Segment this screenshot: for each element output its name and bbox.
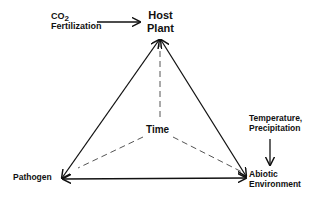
time-label: Time	[146, 124, 169, 135]
node-pathogen: Pathogen	[13, 173, 52, 183]
co2-prefix: CO	[51, 11, 65, 21]
edge-host-pathogen	[62, 40, 159, 178]
co2-line2: Fertilization	[51, 21, 102, 31]
temperature-line2: Precipitation	[249, 124, 302, 134]
edge-host-abiotic	[161, 40, 246, 176]
abiotic-line2: Environment	[249, 180, 301, 190]
node-host-plant: Host Plant	[147, 9, 174, 34]
host-line2: Plant	[147, 22, 174, 35]
driver-temperature: Temperature, Precipitation	[249, 114, 302, 134]
co2-subscript: 2	[65, 14, 69, 23]
edge-time-abiotic	[173, 137, 242, 172]
node-abiotic-environment: Abiotic Environment	[249, 170, 301, 190]
host-line1: Host	[147, 9, 174, 22]
node-time: Time	[146, 124, 169, 136]
edge-pathogen-abiotic	[63, 178, 246, 179]
driver-co2: CO2 Fertilization	[51, 11, 102, 32]
pathogen-label: Pathogen	[13, 172, 52, 182]
